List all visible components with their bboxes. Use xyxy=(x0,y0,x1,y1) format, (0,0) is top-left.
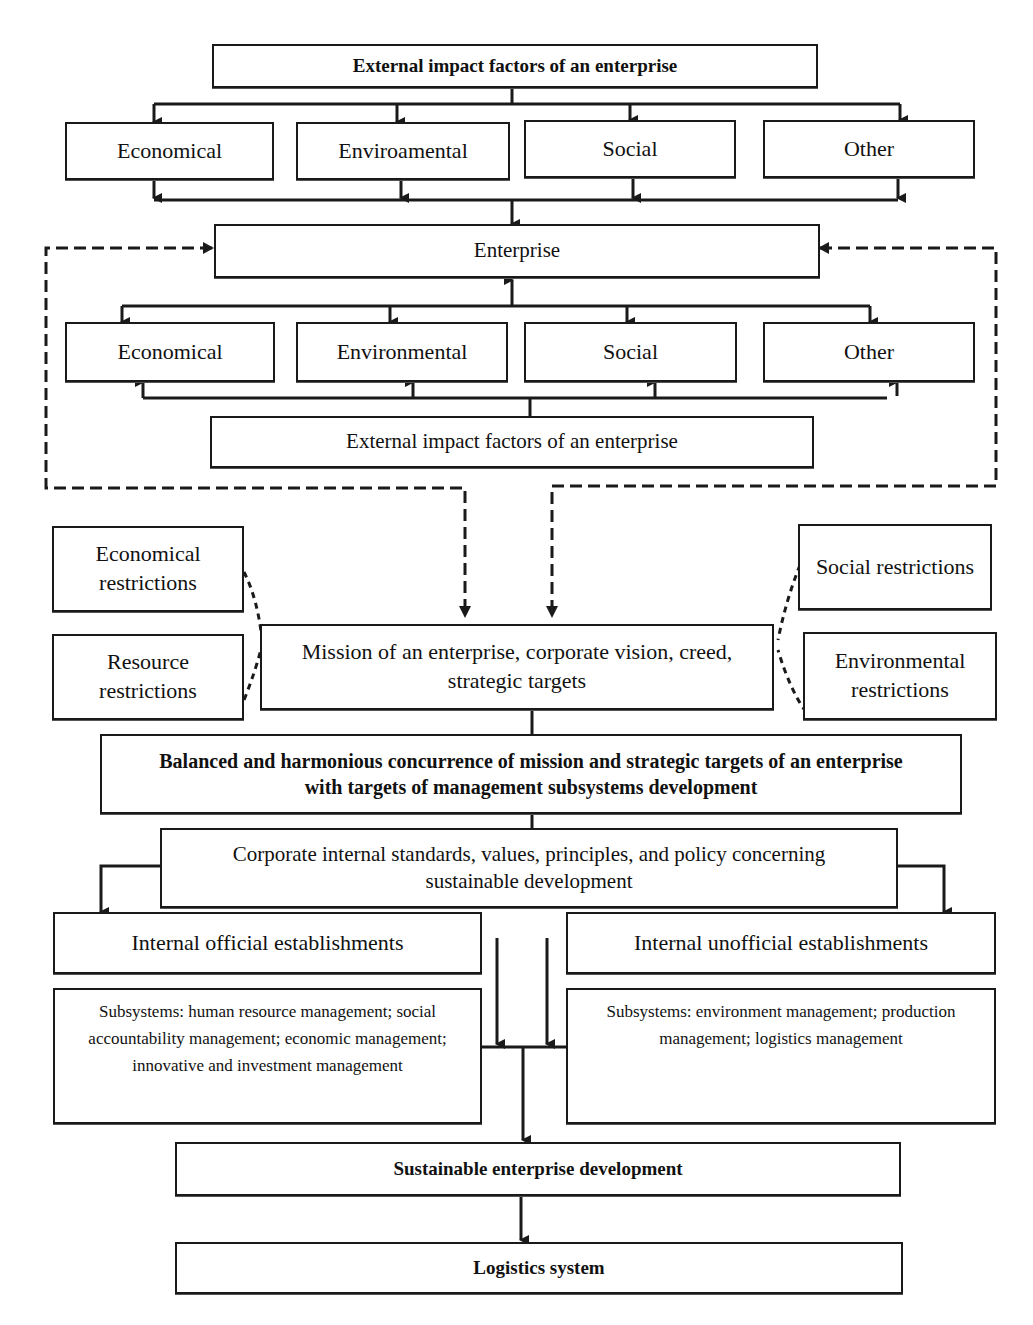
sustainable-development-box: Sustainable enterprise development xyxy=(175,1142,901,1196)
factor-economical-bottom: Economical xyxy=(65,322,275,382)
external-factors-header-top: External impact factors of an enterprise xyxy=(212,44,818,88)
social-restrictions-box: Social restrictions xyxy=(798,524,992,610)
factor-social-top: Social xyxy=(524,120,736,178)
factor-other-top: Other xyxy=(763,120,975,178)
mission-box: Mission of an enterprise, corporate visi… xyxy=(260,624,774,710)
external-factors-footer: External impact factors of an enterprise xyxy=(210,416,814,468)
subsystems-right-box: Subsystems: environment management; prod… xyxy=(566,988,996,1124)
subsystems-left-box: Subsystems: human resource management; s… xyxy=(53,988,482,1124)
resource-restrictions-box: Resource restrictions xyxy=(52,634,244,720)
internal-unofficial-establishments-box: Internal unofficial establishments xyxy=(566,912,996,974)
factor-economical-top: Economical xyxy=(65,122,274,180)
environmental-restrictions-box: Environmental restrictions xyxy=(803,632,997,720)
factor-environmental-top: Enviroamental xyxy=(296,122,510,180)
factor-environmental-bottom: Environmental xyxy=(296,322,508,382)
corporate-standards-box: Corporate internal standards, values, pr… xyxy=(160,828,898,908)
economical-restrictions-box: Economical restrictions xyxy=(52,526,244,612)
enterprise-box: Enterprise xyxy=(214,224,820,278)
logistics-system-box: Logistics system xyxy=(175,1242,903,1294)
balanced-concurrence-box: Balanced and harmonious concurrence of m… xyxy=(100,734,962,814)
factor-social-bottom: Social xyxy=(524,322,737,382)
internal-official-establishments-box: Internal official establishments xyxy=(53,912,482,974)
factor-other-bottom: Other xyxy=(763,322,975,382)
flowchart: External impact factors of an enterprise… xyxy=(0,0,1033,1325)
